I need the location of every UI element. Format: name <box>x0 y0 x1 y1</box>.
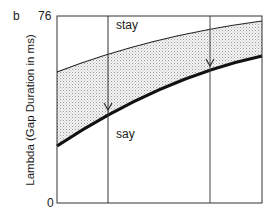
annotation-stay: stay <box>116 18 138 32</box>
annotation-say: say <box>116 127 135 141</box>
plot-area <box>0 0 275 221</box>
